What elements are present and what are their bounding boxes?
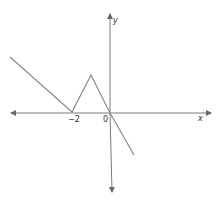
tick-label-neg2: −2 [68, 115, 80, 124]
y-axis [110, 14, 112, 192]
graph: y x −2 0 [0, 0, 220, 200]
function-line [10, 57, 134, 155]
x-axis-label: x [197, 114, 203, 123]
y-axis-label: y [112, 16, 118, 25]
origin-label: 0 [103, 115, 108, 124]
